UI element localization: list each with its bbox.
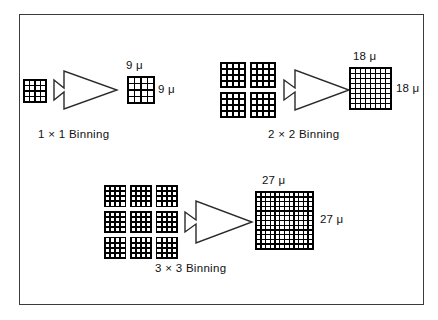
pixel-cell	[376, 94, 380, 98]
pixel-cell	[228, 106, 232, 110]
pixel-cell	[386, 104, 390, 108]
pixel-cell	[173, 244, 177, 248]
pixel-cell	[351, 104, 355, 108]
pixel-cell	[366, 99, 370, 103]
pixel-cell	[299, 231, 302, 234]
pixel-cell	[142, 97, 147, 102]
pixel-cell	[309, 240, 312, 243]
pixel-cell	[234, 64, 238, 68]
pixel-cell	[276, 245, 279, 248]
pixel-cell	[290, 193, 293, 196]
pixel-cell	[222, 76, 226, 80]
pixel-cell	[222, 112, 226, 116]
pixel-cell	[266, 226, 269, 229]
pixel-cell	[222, 94, 226, 98]
pixel-cell	[222, 100, 226, 104]
pixel-cell	[285, 240, 288, 243]
pixel-cell	[386, 74, 390, 78]
pixel-cell	[280, 216, 283, 219]
pixel-cell	[111, 218, 115, 222]
pixel-cell	[234, 82, 238, 86]
pixel-cell	[137, 238, 141, 242]
pixel-cell	[264, 106, 268, 110]
pixel-block	[23, 79, 47, 103]
pixel-cell	[280, 226, 283, 229]
result-side-label-3x3: 27 μ	[320, 213, 343, 226]
pixel-cell	[381, 99, 385, 103]
pixel-cell	[257, 240, 260, 243]
pixel-cell	[168, 223, 172, 227]
pixel-cell	[222, 70, 226, 74]
pixel-cell	[157, 187, 161, 191]
pixel-cell	[264, 94, 268, 98]
pixel-cell	[371, 94, 375, 98]
pixel-cell	[257, 235, 260, 238]
pixel-cell	[240, 82, 244, 86]
pixel-cell	[106, 249, 110, 253]
pixel-cell	[356, 79, 360, 83]
pixel-cell	[309, 193, 312, 196]
pixel-cell	[111, 254, 115, 258]
pixel-cell	[121, 223, 125, 227]
pixel-cell	[266, 212, 269, 215]
pixel-cell	[163, 238, 167, 242]
pixel-cell	[147, 187, 151, 191]
pixel-cell	[290, 207, 293, 210]
pixel-cell	[271, 240, 274, 243]
pixel-cell	[106, 244, 110, 248]
pixel-cell	[147, 213, 151, 217]
pixel-cell	[106, 228, 110, 232]
pixel-cell	[351, 69, 355, 73]
pixel-cell	[257, 198, 260, 201]
pixel-block	[156, 211, 178, 233]
pixel-cell	[106, 192, 110, 196]
pixel-cell	[157, 249, 161, 253]
pixel-cell	[137, 202, 141, 206]
pixel-cell	[276, 231, 279, 234]
pixel-cell	[157, 202, 161, 206]
pixel-cell	[116, 249, 120, 253]
pixel-cell	[234, 70, 238, 74]
pixel-cell	[266, 240, 269, 243]
pixel-cell	[157, 238, 161, 242]
pixel-cell	[111, 202, 115, 206]
pixel-cell	[135, 84, 140, 89]
pixel-cell	[295, 245, 298, 248]
pixel-cell	[252, 64, 256, 68]
pixel-cell	[304, 221, 307, 224]
source-cluster-3x3	[104, 185, 178, 259]
pixel-cell	[30, 97, 34, 101]
pixel-cell	[173, 228, 177, 232]
pixel-cell	[258, 112, 262, 116]
pixel-cell	[173, 213, 177, 217]
pixel-cell	[270, 100, 274, 104]
pixel-cell	[271, 235, 274, 238]
pixel-cell	[270, 76, 274, 80]
pixel-cell	[25, 92, 29, 96]
pixel-cell	[121, 249, 125, 253]
pixel-cell	[147, 249, 151, 253]
pixel-cell	[376, 74, 380, 78]
pixel-cell	[270, 82, 274, 86]
pixel-cell	[371, 79, 375, 83]
pixel-cell	[116, 202, 120, 206]
pixel-cell	[262, 221, 265, 224]
pixel-cell	[351, 99, 355, 103]
pixel-cell	[137, 254, 141, 258]
pixel-block	[220, 62, 246, 88]
pixel-block	[130, 211, 152, 233]
pixel-cell	[371, 74, 375, 78]
pixel-cell	[304, 226, 307, 229]
pixel-cell	[270, 70, 274, 74]
pixel-cell	[299, 193, 302, 196]
pixel-cell	[41, 97, 45, 101]
pixel-cell	[361, 89, 365, 93]
pixel-cell	[36, 86, 40, 90]
arrow-right-icon	[53, 58, 119, 122]
pixel-cell	[142, 91, 147, 96]
pixel-cell	[351, 94, 355, 98]
pixel-cell	[290, 216, 293, 219]
pixel-cell	[111, 187, 115, 191]
pixel-cell	[116, 192, 120, 196]
binned-pixel-3x3	[255, 191, 314, 250]
